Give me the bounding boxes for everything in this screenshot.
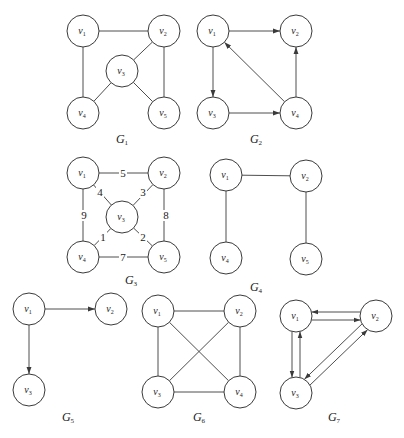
node-label-sub: 4 — [83, 257, 86, 263]
node-label-sub: 2 — [376, 316, 379, 322]
graph-g2: v1v2v3v4G2 — [197, 15, 312, 147]
graph-caption-main: G — [250, 280, 259, 294]
edge-v1-v2 — [242, 175, 290, 176]
graph-caption-sub: 7 — [337, 417, 341, 425]
node-v2: v2 — [224, 295, 256, 327]
graph-caption: G2 — [250, 132, 263, 147]
node-v5: v5 — [148, 241, 180, 273]
node-v4: v4 — [280, 97, 312, 129]
node-v3: v3 — [13, 374, 45, 406]
graph-caption: G3 — [125, 273, 138, 288]
node-v4: v4 — [210, 242, 242, 274]
node-label-sub: 2 — [240, 311, 243, 317]
node-label-sub: 1 — [158, 311, 161, 317]
node-label-sub: 5 — [306, 259, 309, 265]
node-v1: v1 — [67, 15, 99, 47]
edge-v2-v3 — [134, 42, 153, 60]
node-v5: v5 — [290, 243, 322, 275]
graph-figure: v1v2v3v4v5G1v1v2v3v4G254938127v1v2v3v4v5… — [0, 0, 404, 438]
edges — [158, 311, 240, 392]
edge-v4-v1 — [224, 42, 284, 102]
node-label-sub: 1 — [83, 31, 86, 37]
graph-caption-sub: 3 — [134, 280, 138, 288]
graph-caption: G4 — [250, 280, 263, 295]
edge-weight: 2 — [140, 231, 146, 243]
graph-caption: G6 — [193, 410, 206, 425]
node-label-sub: 3 — [122, 71, 125, 77]
node-v4: v4 — [67, 97, 99, 129]
graph-g3: 54938127v1v2v3v4v5G3 — [67, 157, 180, 288]
graph-caption-main: G — [250, 132, 259, 146]
node-label-sub: 1 — [226, 175, 229, 181]
node-v1: v1 — [67, 157, 99, 189]
node-v4: v4 — [224, 376, 256, 408]
node-v4: v4 — [67, 241, 99, 273]
edge-weight: 7 — [120, 251, 126, 263]
graph-caption-sub: 2 — [259, 139, 263, 147]
node-v3: v3 — [142, 376, 174, 408]
graph-caption-main: G — [328, 410, 337, 424]
node-v2: v2 — [360, 300, 392, 332]
node-v1: v1 — [142, 295, 174, 327]
graph-caption: G1 — [116, 132, 129, 147]
edge-weight: 8 — [163, 209, 169, 221]
edge-weight: 4 — [97, 186, 103, 198]
node-v1: v1 — [13, 293, 45, 325]
edge-v3-v4 — [94, 83, 111, 102]
node-label-sub: 3 — [29, 390, 32, 396]
node-v1: v1 — [210, 159, 242, 191]
node-v3: v3 — [106, 55, 138, 87]
node-label-sub: 4 — [240, 392, 243, 398]
node-v2: v2 — [95, 293, 127, 325]
graph-caption-main: G — [116, 132, 125, 146]
node-label-sub: 1 — [83, 173, 86, 179]
node-label-sub: 2 — [306, 176, 309, 182]
edge-weight: 5 — [120, 167, 126, 179]
edge-weight: 9 — [81, 209, 87, 221]
node-label-sub: 1 — [296, 316, 299, 322]
node-v3: v3 — [106, 201, 138, 233]
edge-v3-v5 — [133, 82, 152, 101]
graph-caption: G5 — [62, 410, 75, 425]
node-v5: v5 — [148, 97, 180, 129]
edge-v3-v2 — [310, 330, 368, 386]
graph-caption-sub: 1 — [125, 139, 129, 147]
node-label-sub: 4 — [226, 258, 229, 264]
node-label-sub: 1 — [213, 31, 216, 37]
node-label-sub: 4 — [296, 113, 299, 119]
graph-caption-sub: 5 — [71, 417, 75, 425]
node-label-sub: 3 — [158, 392, 161, 398]
node-v1: v1 — [197, 15, 229, 47]
graphs-layer: v1v2v3v4v5G1v1v2v3v4G254938127v1v2v3v4v5… — [13, 15, 392, 425]
node-label-sub: 2 — [164, 173, 167, 179]
graph-caption-main: G — [125, 273, 134, 287]
node-v2: v2 — [290, 160, 322, 192]
node-v3: v3 — [280, 377, 312, 409]
node-label-sub: 2 — [111, 309, 114, 315]
edge-weight: 3 — [140, 186, 146, 198]
node-label-sub: 3 — [122, 217, 125, 223]
node-v1: v1 — [280, 300, 312, 332]
graph-caption-sub: 6 — [202, 417, 206, 425]
node-label-sub: 3 — [296, 393, 299, 399]
graph-g4: v1v2v4v5G4 — [210, 159, 322, 295]
edge-weight: 1 — [100, 231, 106, 243]
node-label-sub: 3 — [213, 113, 216, 119]
graph-caption: G7 — [328, 410, 341, 425]
node-label-sub: 2 — [296, 31, 299, 37]
node-v2: v2 — [280, 15, 312, 47]
node-v3: v3 — [197, 97, 229, 129]
graph-g5: v1v2v3G5 — [13, 293, 127, 425]
node-v2: v2 — [148, 157, 180, 189]
node-label-sub: 5 — [164, 113, 167, 119]
node-label-sub: 4 — [83, 113, 86, 119]
edge-v2-v3 — [304, 324, 362, 380]
graph-caption-sub: 4 — [259, 287, 263, 295]
graph-g6: v1v2v3v4G6 — [142, 295, 256, 425]
node-label-sub: 1 — [29, 309, 32, 315]
node-v2: v2 — [148, 15, 180, 47]
node-label-sub: 2 — [164, 31, 167, 37]
edges — [213, 31, 296, 113]
graph-g7: v1v2v3G7 — [280, 300, 392, 425]
graph-g1: v1v2v3v4v5G1 — [67, 15, 180, 147]
